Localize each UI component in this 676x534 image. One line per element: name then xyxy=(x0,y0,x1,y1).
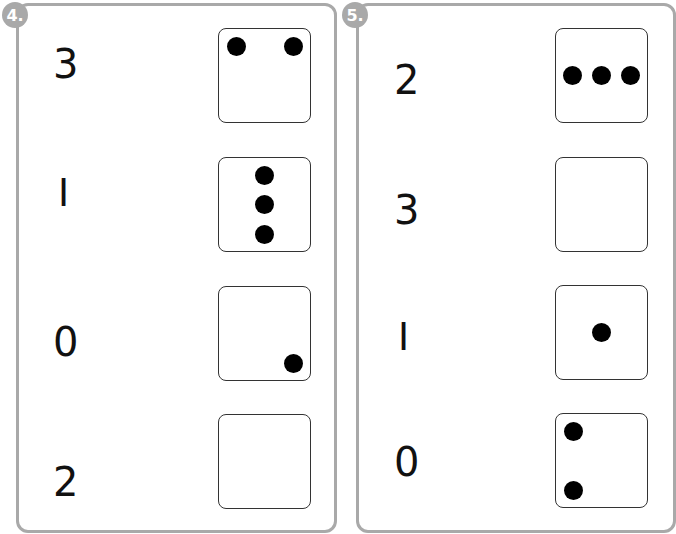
numeral: 3 xyxy=(394,190,419,230)
numeral: 0 xyxy=(53,322,78,362)
dot xyxy=(255,195,274,214)
numeral: 2 xyxy=(53,462,78,502)
dot-box[interactable] xyxy=(555,285,648,380)
numeral: 2 xyxy=(394,60,419,100)
exercise-4-badge: 4. xyxy=(2,2,28,28)
dot-box[interactable] xyxy=(555,413,648,508)
dot xyxy=(564,422,583,441)
dot xyxy=(227,37,246,56)
exercise-5-badge: 5. xyxy=(342,2,368,28)
dot xyxy=(621,66,640,85)
dot xyxy=(284,37,303,56)
numeral: I xyxy=(58,172,69,212)
dot-box[interactable] xyxy=(218,414,311,509)
dot xyxy=(592,323,611,342)
numeral: 3 xyxy=(53,44,78,84)
dot-box[interactable] xyxy=(555,28,648,123)
dot xyxy=(284,354,303,373)
numeral: I xyxy=(398,316,409,356)
dot-box[interactable] xyxy=(218,286,311,381)
dot-box[interactable] xyxy=(218,28,311,123)
dot xyxy=(255,166,274,185)
dot-box[interactable] xyxy=(555,157,648,252)
dot xyxy=(255,225,274,244)
dot xyxy=(564,481,583,500)
dot-box[interactable] xyxy=(218,157,311,252)
numeral: 0 xyxy=(394,442,419,482)
dot xyxy=(563,66,582,85)
dot xyxy=(592,66,611,85)
